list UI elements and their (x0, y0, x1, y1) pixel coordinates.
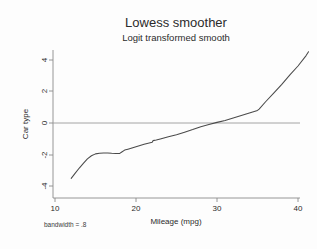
x-tick-label: 20 (132, 204, 141, 213)
lowess-chart: Lowess smoother Logit transformed smooth… (0, 0, 317, 249)
y-axis-title: Car type (21, 108, 30, 139)
bandwidth-annotation: bandwidth = .8 (44, 221, 87, 228)
x-tick-label: 30 (213, 204, 222, 213)
y-tick-label: 0 (40, 120, 49, 125)
x-tick-label: 10 (51, 204, 60, 213)
y-tick-label: 2 (40, 88, 49, 93)
y-tick-label: -4 (40, 182, 49, 190)
y-axis-ticks: 4 2 0 -2 -4 (40, 57, 54, 189)
chart-subtitle: Logit transformed smooth (122, 32, 230, 43)
x-axis-ticks: 10 20 30 40 (51, 198, 303, 213)
lowess-smooth-line (71, 52, 308, 179)
x-axis-title: Mileage (mpg) (150, 217, 201, 226)
y-tick-label: -2 (40, 151, 49, 159)
chart-title: Lowess smoother (125, 15, 228, 30)
y-tick-label: 4 (40, 57, 49, 62)
chart-page: Lowess smoother Logit transformed smooth… (0, 0, 317, 249)
x-tick-label: 40 (294, 204, 303, 213)
